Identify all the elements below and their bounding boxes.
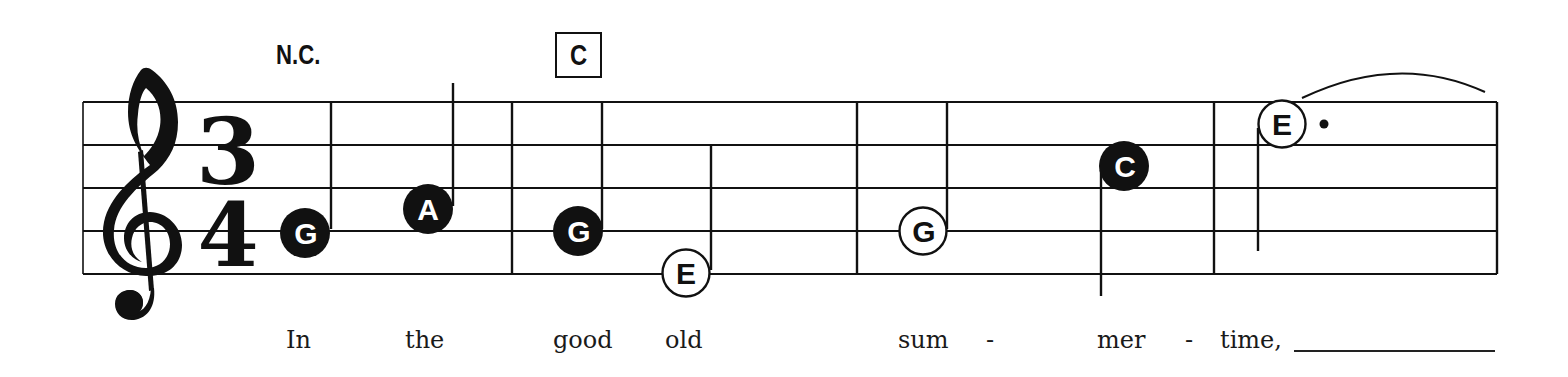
lyric-hyphen: - xyxy=(986,326,994,354)
time-signature: 3 4 xyxy=(196,98,260,287)
sheet-music-staff: 3 4 G A G E xyxy=(0,0,1568,377)
note-letter: C xyxy=(1114,150,1136,183)
measure-3: G C xyxy=(900,141,1150,255)
chord-symbol-nc: N.C. xyxy=(276,40,320,71)
tie-curve xyxy=(1302,73,1485,98)
measure-4: E xyxy=(1259,73,1486,147)
note-c-quarter[interactable]: C xyxy=(1099,141,1149,191)
measure-2: G E xyxy=(553,206,710,297)
lyric-hyphen: - xyxy=(1185,326,1193,354)
lyric-syllable: mer xyxy=(1097,326,1145,354)
note-a-quarter[interactable]: A xyxy=(403,184,453,234)
note-letter: G xyxy=(567,215,590,248)
lyric-extender-line xyxy=(1294,350,1495,352)
note-letter: A xyxy=(417,193,439,226)
lyric-syllable: the xyxy=(405,326,444,354)
lyric-syllable: old xyxy=(665,326,703,354)
lyric-syllable: time, xyxy=(1220,326,1282,354)
chord-label: C xyxy=(570,39,587,72)
treble-clef-icon xyxy=(103,68,182,320)
time-signature-denominator: 4 xyxy=(197,183,258,287)
note-letter: G xyxy=(912,215,935,248)
lyric-syllable: sum xyxy=(898,326,949,354)
chord-symbol-c-boxed: C xyxy=(555,32,602,78)
note-g-quarter[interactable]: G xyxy=(553,206,603,256)
note-g-quarter[interactable]: G xyxy=(280,208,330,258)
note-e-half[interactable]: E xyxy=(663,250,710,297)
note-letter: G xyxy=(294,217,317,250)
note-e-dotted-half[interactable]: E xyxy=(1259,101,1306,148)
lyric-syllable: In xyxy=(286,326,311,354)
note-g-half[interactable]: G xyxy=(900,208,947,255)
measure-1: G A xyxy=(280,184,453,258)
lyric-syllable: good xyxy=(553,326,613,354)
note-letter: E xyxy=(1272,108,1292,141)
note-letter: E xyxy=(676,257,696,290)
augmentation-dot xyxy=(1320,120,1329,129)
